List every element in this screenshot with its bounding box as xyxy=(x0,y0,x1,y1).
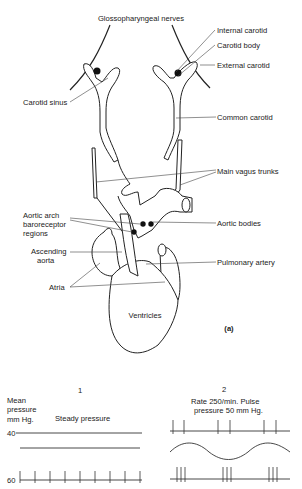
leader-pulmonary xyxy=(146,262,216,264)
label-main-vagus: Main vagus trunks xyxy=(217,167,279,176)
label-external-carotid: External carotid xyxy=(217,61,270,70)
label-common-carotid: Common carotid xyxy=(217,113,273,122)
label-ascending-2: aorta xyxy=(37,256,55,265)
rate-label-1: Rate 250/min. Pulse xyxy=(191,397,259,406)
leader-vagus-right xyxy=(180,172,216,185)
aortic-body-1 xyxy=(140,221,145,226)
leader-atria-1 xyxy=(70,263,100,287)
left-carotid-body xyxy=(94,68,101,75)
axis-label-1: Mean xyxy=(7,396,26,405)
right-carotid-body xyxy=(175,70,182,77)
label-carotid-body: Carotid body xyxy=(217,41,260,50)
label-aortic-bodies: Aortic bodies xyxy=(217,219,261,228)
right-carotid-vessel xyxy=(153,62,197,160)
baroreceptor-figure: Glossopharyngeal nerves Internal carotid… xyxy=(0,0,302,489)
burst-spikes xyxy=(177,467,277,482)
label-aortic-arch-2: baroreceptor xyxy=(23,220,67,229)
aortic-body-2 xyxy=(148,221,153,226)
label-glossopharyngeal: Glossopharyngeal nerves xyxy=(98,14,184,23)
label-internal-carotid: Internal carotid xyxy=(217,26,267,35)
left-carotid-vessel xyxy=(84,64,120,162)
label-pulmonary: Pulmonary artery xyxy=(217,258,275,267)
label-ventricles: Ventricles xyxy=(129,311,162,320)
tick-60: 60 xyxy=(7,476,15,485)
label-carotid-sinus: Carotid sinus xyxy=(23,98,68,107)
leader-vagus-left xyxy=(96,170,216,182)
steady-label: Steady pressure xyxy=(55,414,110,423)
axis-label-2: pressure xyxy=(7,405,37,414)
leader-common-carotid xyxy=(176,117,216,118)
label-aortic-arch-3: regions xyxy=(23,229,48,238)
pulse-spikes-top xyxy=(173,420,276,434)
pulmonary-artery-end xyxy=(158,244,166,256)
label-ascending-1: Ascending xyxy=(31,247,66,256)
left-vagus-trunk xyxy=(92,148,97,198)
trace-col2-number: 2 xyxy=(222,385,226,394)
pulsatile-pressure-wave xyxy=(170,443,290,460)
label-atria: Atria xyxy=(49,283,65,292)
tick-40: 40 xyxy=(7,429,15,438)
trace-col1-number: 1 xyxy=(78,386,82,395)
label-aortic-arch-1: Aortic arch xyxy=(23,211,59,220)
panel-label: (a) xyxy=(224,324,234,333)
leader-aortic-bodies xyxy=(153,222,216,223)
rate-label-2: pressure 50 mm Hg. xyxy=(194,406,263,415)
aortic-cut-end xyxy=(182,198,190,212)
steady-spikes xyxy=(20,471,140,483)
axis-label-3: mm Hg. xyxy=(7,415,34,424)
